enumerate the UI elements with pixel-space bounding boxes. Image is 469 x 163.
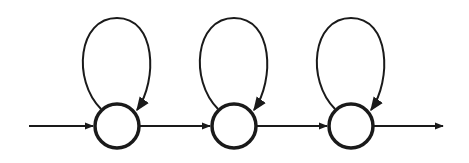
state-node-3 bbox=[329, 104, 373, 148]
state-node-2 bbox=[212, 104, 256, 148]
state-2 bbox=[200, 18, 267, 148]
state-3 bbox=[317, 18, 384, 148]
self-loop-1 bbox=[83, 18, 150, 110]
self-loop-3 bbox=[317, 18, 384, 110]
self-loop-2 bbox=[200, 18, 267, 110]
state-node-1 bbox=[95, 104, 139, 148]
state-chain-diagram bbox=[0, 0, 469, 163]
state-1 bbox=[83, 18, 150, 148]
